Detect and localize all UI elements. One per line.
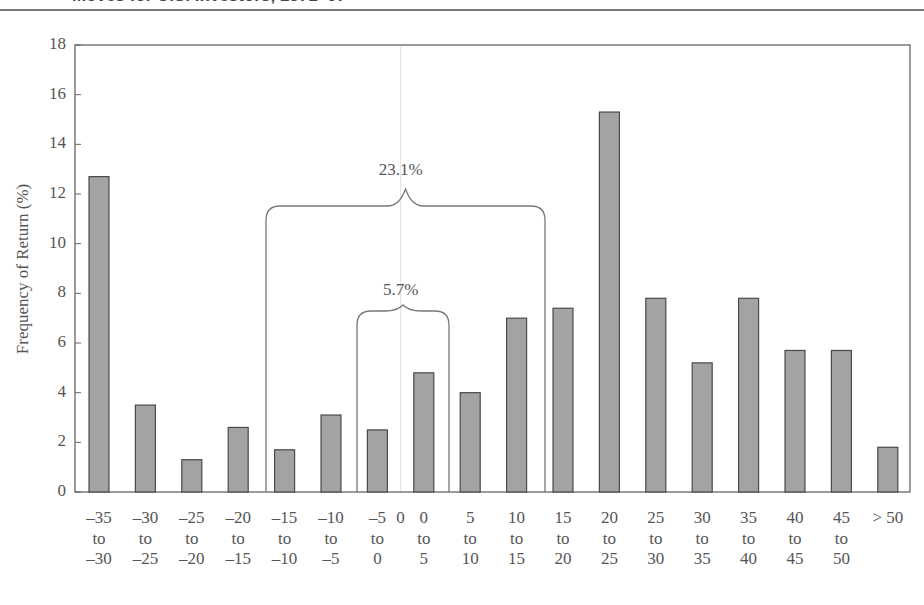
x-tick-label-line: 20 [541, 549, 585, 570]
x-tick-label-line [866, 549, 910, 570]
brace-23-1-percent [266, 189, 545, 492]
y-tick-label: 8 [36, 282, 66, 302]
x-tick-label-line: –10 [263, 549, 307, 570]
x-tick-label-line: 10 [448, 549, 492, 570]
x-tick-label: 40to45 [773, 508, 817, 570]
zero-marker-label: 0 [379, 508, 423, 529]
x-tick-label-line: 5 [402, 549, 446, 570]
y-tick-label: 0 [36, 481, 66, 501]
x-tick-label-line: to [819, 529, 863, 550]
bar [414, 373, 434, 492]
x-tick-label-line: to [634, 529, 678, 550]
y-tick-label: 18 [36, 34, 66, 54]
x-tick-label: –10to–5 [309, 508, 353, 570]
annotation-5-7-percent: 5.7% [361, 280, 441, 300]
bar [646, 298, 666, 492]
y-axis-label: Frequency of Return (%) [13, 184, 33, 354]
bar [367, 430, 387, 492]
x-tick-label-line: 30 [634, 549, 678, 570]
bar [785, 350, 805, 492]
x-tick-label: 5to10 [448, 508, 492, 570]
bar [275, 450, 295, 492]
x-tick-label: > 50 [866, 508, 910, 570]
x-tick-label-line: –20 [170, 549, 214, 570]
x-tick-label-line: –15 [216, 549, 260, 570]
bar [321, 415, 341, 492]
x-tick-label-line: 50 [819, 549, 863, 570]
x-tick-label-line: to [680, 529, 724, 550]
x-tick-label-line: 40 [727, 549, 771, 570]
x-tick-label-line: –30 [77, 549, 121, 570]
x-tick-label-line: to [402, 529, 446, 550]
x-tick-label: –15to–10 [263, 508, 307, 570]
x-tick-label: 45to50 [819, 508, 863, 570]
y-tick-label: 6 [36, 332, 66, 352]
bar [599, 112, 619, 492]
x-tick-label-line: to [170, 529, 214, 550]
x-tick-label-line: to [309, 529, 353, 550]
x-tick-label-line: 45 [773, 549, 817, 570]
x-tick-label-line: to [727, 529, 771, 550]
bar [89, 177, 109, 492]
bar [831, 350, 851, 492]
bar [739, 298, 759, 492]
x-tick-label-line: –5 [309, 549, 353, 570]
bar [692, 363, 712, 492]
x-tick-label-line: –25 [123, 549, 167, 570]
annotation-23-1-percent: 23.1% [361, 160, 441, 180]
x-tick-label-line: to [263, 529, 307, 550]
x-tick-label-line: to [123, 529, 167, 550]
x-tick-label: 30to35 [680, 508, 724, 570]
y-tick-label: 4 [36, 382, 66, 402]
x-tick-label-line: to [77, 529, 121, 550]
x-tick-label-line: 45 [819, 508, 863, 529]
x-tick-label-line: 35 [680, 549, 724, 570]
x-tick-label-line: –20 [216, 508, 260, 529]
x-tick-label-line: to [216, 529, 260, 550]
x-tick-label-line: to [448, 529, 492, 550]
x-tick-label: –35to–30 [77, 508, 121, 570]
bar [182, 460, 202, 492]
x-tick-label-line: 25 [587, 549, 631, 570]
y-tick-label: 14 [36, 133, 66, 153]
x-tick-label: –25to–20 [170, 508, 214, 570]
x-tick-label-line: 5 [448, 508, 492, 529]
x-tick-label: 20to25 [587, 508, 631, 570]
x-tick-label-line: 0 [355, 549, 399, 570]
x-tick-label-line: 35 [727, 508, 771, 529]
x-tick-label: 35to40 [727, 508, 771, 570]
x-tick-label-line: –10 [309, 508, 353, 529]
x-tick-label-line: –15 [263, 508, 307, 529]
y-tick-label: 2 [36, 431, 66, 451]
bar [553, 308, 573, 492]
x-tick-label-line: to [587, 529, 631, 550]
x-tick-label: 25to30 [634, 508, 678, 570]
x-tick-label-line: 20 [587, 508, 631, 529]
y-tick-label: 16 [36, 84, 66, 104]
bar [135, 405, 155, 492]
x-tick-label-line: to [495, 529, 539, 550]
x-tick-label-line: 10 [495, 508, 539, 529]
x-tick-label-line: to [541, 529, 585, 550]
bar [228, 427, 248, 492]
x-tick-label-line: 40 [773, 508, 817, 529]
bar [460, 393, 480, 492]
x-tick-label: –30to–25 [123, 508, 167, 570]
x-tick-label: 15to20 [541, 508, 585, 570]
y-tick-label: 10 [36, 233, 66, 253]
bar [507, 318, 527, 492]
x-tick-label-line [866, 529, 910, 550]
bar [878, 447, 898, 492]
x-tick-label-line: –30 [123, 508, 167, 529]
x-tick-label: –20to–15 [216, 508, 260, 570]
x-tick-label-line: to [773, 529, 817, 550]
y-tick-label: 12 [36, 183, 66, 203]
x-tick-label-line: to [355, 529, 399, 550]
x-tick-label-line: 30 [680, 508, 724, 529]
x-tick-label-line: 15 [495, 549, 539, 570]
x-tick-label-line: 25 [634, 508, 678, 529]
x-tick-label-line: –35 [77, 508, 121, 529]
x-tick-label-line: > 50 [866, 508, 910, 529]
x-tick-label: 10to15 [495, 508, 539, 570]
x-tick-label-line: 15 [541, 508, 585, 529]
